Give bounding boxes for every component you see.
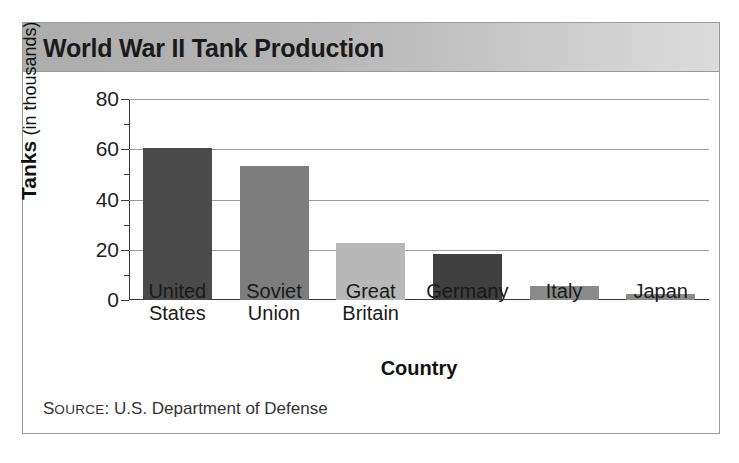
y-axis-tick-label: 80 xyxy=(96,87,119,111)
chart-panel: World War II Tank Production Tanks (in t… xyxy=(22,22,720,434)
source-smallcaps: OURCE xyxy=(54,402,104,417)
category-label-line: Germany xyxy=(419,280,516,302)
category-label-line: Union xyxy=(226,302,323,324)
y-axis-tick-label: 0 xyxy=(107,288,119,312)
y-axis-title: Tanks (in thousands) xyxy=(17,22,41,201)
y-axis-tick-label: 40 xyxy=(96,188,119,212)
y-axis-title-light: (in thousands) xyxy=(20,22,40,136)
y-axis-tick-labels: 020406080 xyxy=(71,99,119,300)
y-axis-major-tick xyxy=(121,250,129,251)
x-axis-category-label: Germany xyxy=(419,280,516,302)
x-axis-category-label: GreatBritain xyxy=(322,280,419,325)
y-axis-major-tick xyxy=(121,200,129,201)
y-axis-minor-tick xyxy=(124,275,129,276)
source-text: : U.S. Department of Defense xyxy=(105,399,328,418)
category-label-line: Italy xyxy=(516,280,613,302)
gridline xyxy=(129,250,709,251)
plot-wrapper: Tanks (in thousands) 020406080 UnitedSta… xyxy=(23,72,719,433)
category-label-line: States xyxy=(129,302,226,324)
y-axis-tick-label: 20 xyxy=(96,238,119,262)
x-axis-category-label: Japan xyxy=(612,280,709,302)
category-label-line: Japan xyxy=(612,280,709,302)
chart-title-band: World War II Tank Production xyxy=(23,23,719,72)
source-note: SOURCE: U.S. Department of Defense xyxy=(43,399,328,419)
x-axis-title: Country xyxy=(129,357,709,380)
x-axis-category-labels: UnitedStatesSovietUnionGreatBritainGerma… xyxy=(129,280,709,340)
bar xyxy=(143,148,212,300)
x-axis-category-label: UnitedStates xyxy=(129,280,226,325)
y-axis-major-tick xyxy=(121,149,129,150)
y-axis-minor-tick xyxy=(124,124,129,125)
y-axis-major-tick xyxy=(121,99,129,100)
y-axis-title-bold: Tanks xyxy=(17,141,40,200)
category-label-line: Britain xyxy=(322,302,419,324)
category-label-line: Great xyxy=(322,280,419,302)
y-axis-minor-tick xyxy=(124,225,129,226)
x-axis-category-label: Italy xyxy=(516,280,613,302)
source-lead: S xyxy=(43,399,54,418)
y-axis-minor-tick xyxy=(124,174,129,175)
gridline xyxy=(129,200,709,201)
y-axis-major-tick xyxy=(121,300,129,301)
gridline xyxy=(129,99,709,100)
y-axis-tick-label: 60 xyxy=(96,137,119,161)
category-label-line: Soviet xyxy=(226,280,323,302)
category-label-line: United xyxy=(129,280,226,302)
gridline xyxy=(129,149,709,150)
x-axis-category-label: SovietUnion xyxy=(226,280,323,325)
page-title: World War II Tank Production xyxy=(43,34,384,63)
plot-area xyxy=(129,99,709,300)
